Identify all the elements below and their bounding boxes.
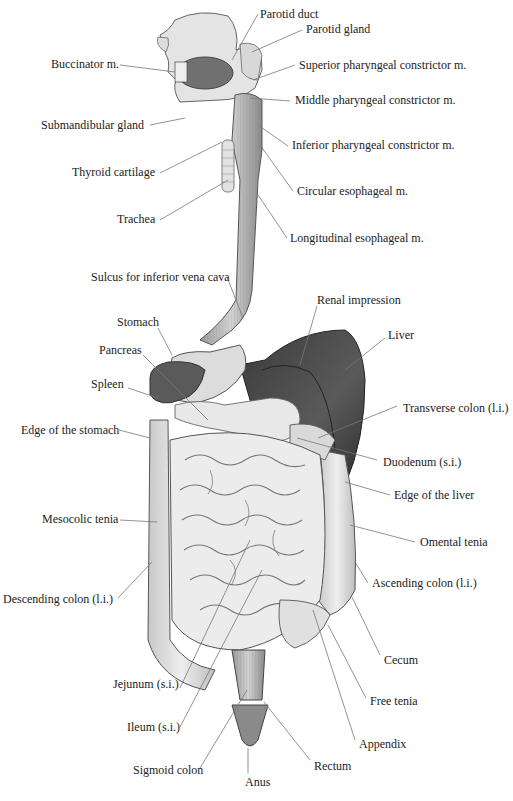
label-thyroid: Thyroid cartilage <box>72 165 155 179</box>
leader-line-edge-stomach <box>119 430 150 438</box>
leader-line-descending-colon <box>118 562 152 598</box>
leader-line-omental <box>350 525 415 542</box>
label-descending-colon: Descending colon (l.i.) <box>3 592 113 606</box>
label-jejunum: Jejunum (s.i.) <box>113 677 179 691</box>
label-rectum: Rectum <box>314 759 351 773</box>
leader-line-submandibular <box>150 118 185 125</box>
leader-line-stomach <box>158 328 172 355</box>
label-ascending-colon: Ascending colon (l.i.) <box>372 576 477 590</box>
leader-line-parotid-gland <box>252 30 302 52</box>
label-stomach: Stomach <box>117 315 159 329</box>
leader-line-longitudinal-esophageal <box>258 195 287 238</box>
leader-line-rectum <box>264 702 310 760</box>
label-appendix: Appendix <box>359 737 406 751</box>
label-pancreas: Pancreas <box>99 343 142 357</box>
label-parotid-duct: Parotid duct <box>260 7 318 21</box>
leader-line-edge-liver <box>345 482 390 495</box>
leader-line-appendix <box>313 610 355 740</box>
rectum-shape <box>232 650 268 746</box>
label-superior-pharyngeal: Superior pharyngeal constrictor m. <box>299 58 466 72</box>
label-liver: Liver <box>388 328 414 342</box>
leader-line-thyroid <box>160 142 222 173</box>
label-middle-pharyngeal: Middle pharyngeal constrictor m. <box>295 93 456 107</box>
label-buccinator: Buccinator m. <box>51 57 119 71</box>
esophagus <box>200 93 262 345</box>
trachea-shape <box>222 140 234 192</box>
label-submandibular: Submandibular gland <box>41 118 144 132</box>
leader-line-circular-esophageal <box>260 145 293 191</box>
label-cecum: Cecum <box>384 653 418 667</box>
label-circular-esophageal: Circular esophageal m. <box>297 184 408 198</box>
leader-line-trachea <box>160 180 228 220</box>
label-renal-impression: Renal impression <box>317 293 401 307</box>
label-sigmoid-colon: Sigmoid colon <box>133 763 203 777</box>
label-sulcus-ivc: Sulcus for inferior vena cava <box>91 270 230 284</box>
label-mesocolic: Mesocolic tenia <box>42 512 118 526</box>
label-free-tenia: Free tenia <box>370 694 418 708</box>
label-spleen: Spleen <box>91 377 124 391</box>
leader-line-buccinator <box>120 65 175 72</box>
label-ileum: Ileum (s.i.) <box>127 720 180 734</box>
leader-line-ascending-colon <box>355 562 368 583</box>
stomach-spleen <box>150 345 246 403</box>
label-inferior-pharyngeal: Inferior pharyngeal constrictor m. <box>292 138 455 152</box>
label-edge-stomach: Edge of the stomach <box>21 423 119 437</box>
cecum-shape <box>279 600 330 648</box>
label-transverse-colon: Transverse colon (l.i.) <box>403 401 509 415</box>
label-edge-liver: Edge of the liver <box>394 488 474 502</box>
head-region <box>157 13 262 102</box>
label-duodenum: Duodenum (s.i.) <box>383 455 461 469</box>
label-omental: Omental tenia <box>420 535 488 549</box>
leader-line-cecum <box>352 597 380 655</box>
leader-line-free-tenia <box>328 625 366 698</box>
label-anus: Anus <box>245 775 270 789</box>
label-longitudinal-esophageal: Longitudinal esophageal m. <box>290 231 424 245</box>
label-parotid-gland: Parotid gland <box>306 22 370 36</box>
label-trachea: Trachea <box>117 212 155 226</box>
